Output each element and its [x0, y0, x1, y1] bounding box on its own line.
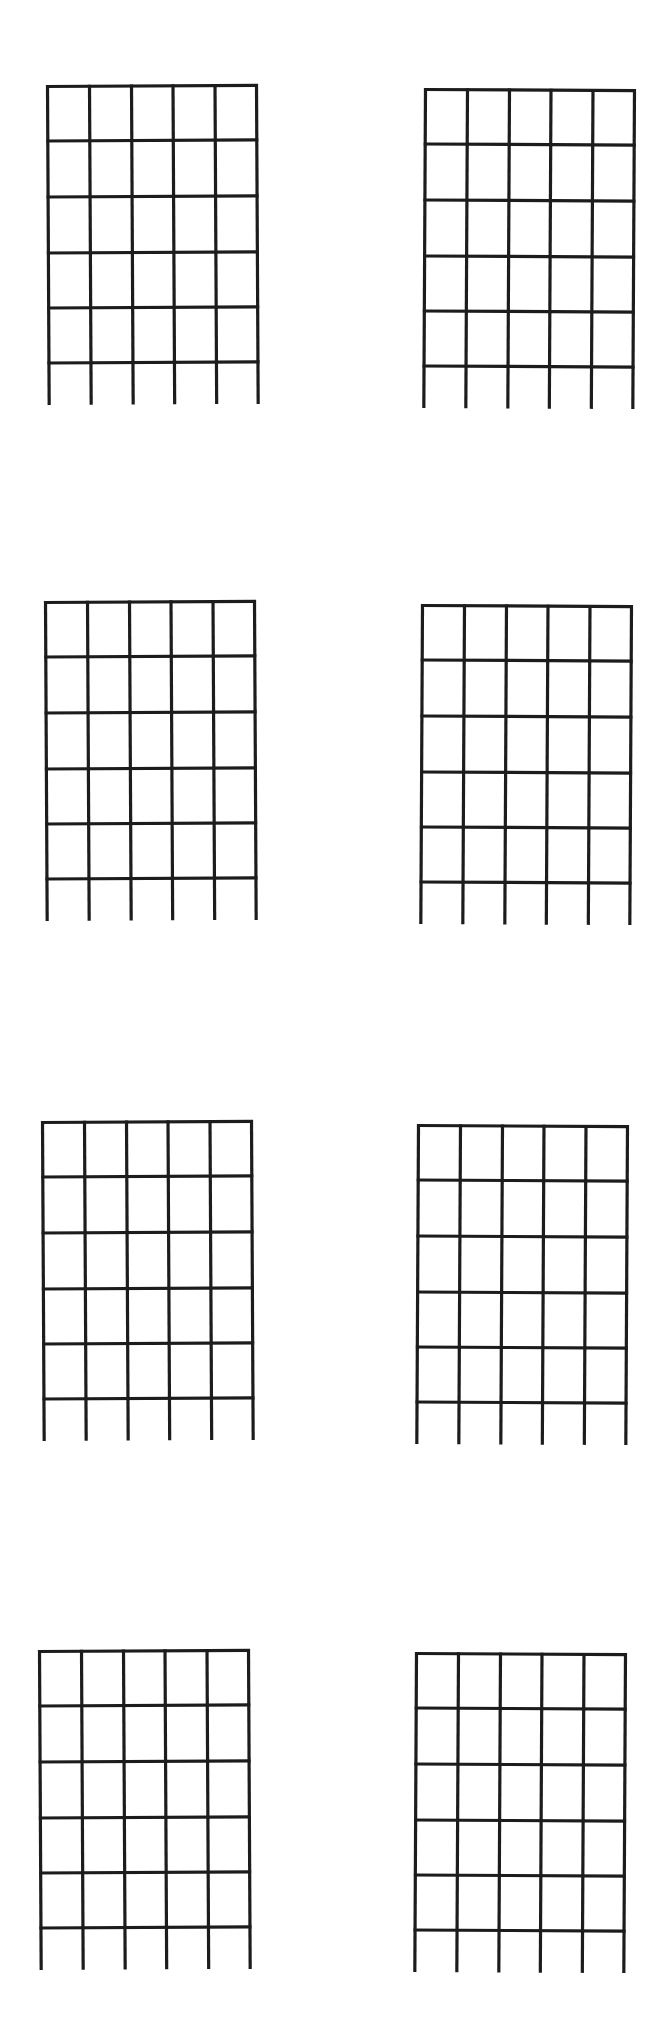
fret-line — [420, 716, 632, 717]
fret-line — [423, 311, 635, 312]
fret-line — [47, 362, 259, 363]
string-line — [463, 604, 465, 924]
strings — [42, 1120, 253, 1441]
string-line — [591, 89, 593, 409]
string-line — [126, 1121, 128, 1441]
string-line — [584, 1125, 586, 1445]
string-line — [210, 1120, 212, 1440]
fret-line — [42, 1398, 254, 1399]
frets — [414, 1654, 627, 1932]
fret-line — [414, 1764, 626, 1765]
fretboard-grid-icon — [38, 1649, 254, 1972]
chord-box-r1c1 — [46, 84, 262, 407]
chord-box-r3c2 — [415, 1124, 631, 1447]
string-line — [466, 88, 468, 408]
string-line — [546, 605, 548, 925]
fret-line — [45, 768, 257, 769]
nut-line — [417, 1126, 629, 1127]
string-line — [171, 600, 173, 920]
string-line — [457, 1652, 459, 1972]
strings — [39, 1649, 250, 1970]
strings — [421, 604, 632, 925]
fret-line — [45, 823, 257, 824]
fret-line — [42, 1288, 254, 1289]
string-line — [89, 85, 91, 405]
nut-line — [46, 85, 258, 86]
fretboard-grid-icon — [44, 600, 260, 923]
nut-line — [41, 1121, 253, 1122]
string-line — [248, 1649, 250, 1969]
string-line — [415, 1652, 417, 1972]
string-line — [129, 601, 131, 921]
fret-line — [39, 1817, 251, 1818]
fretboard-grid-icon — [413, 1652, 629, 1975]
fret-line — [45, 878, 257, 879]
string-line — [626, 1125, 628, 1445]
string-line — [417, 1124, 419, 1444]
chord-chart-sheet — [0, 0, 665, 2041]
string-line — [254, 600, 256, 920]
fret-line — [423, 256, 635, 257]
frets — [416, 1126, 629, 1404]
fret-line — [47, 196, 259, 197]
fret-line — [39, 1927, 251, 1928]
strings — [45, 600, 256, 921]
string-line — [582, 1653, 584, 1973]
frets — [46, 85, 259, 363]
fret-line — [42, 1343, 254, 1344]
string-line — [47, 85, 49, 405]
string-line — [251, 1120, 253, 1440]
fret-line — [414, 1820, 626, 1821]
fret-line — [47, 252, 259, 253]
nut-line — [421, 606, 633, 607]
fretboard-grid-icon — [415, 1124, 631, 1447]
fret-line — [420, 882, 632, 883]
string-line — [542, 1125, 544, 1445]
chord-box-r3c1 — [41, 1120, 257, 1443]
string-line — [508, 88, 510, 408]
chord-box-r4c2 — [413, 1652, 629, 1975]
string-line — [45, 601, 47, 921]
frets — [41, 1121, 254, 1399]
fretboard-grid-icon — [41, 1120, 257, 1443]
frets — [420, 606, 633, 884]
string-line — [213, 600, 215, 920]
string-line — [168, 1120, 170, 1440]
string-line — [549, 89, 551, 409]
string-line — [39, 1650, 41, 1970]
string-line — [624, 1653, 626, 1973]
nut-line — [44, 601, 256, 602]
fret-line — [39, 1761, 251, 1762]
fret-line — [414, 1875, 626, 1876]
string-line — [81, 1650, 83, 1970]
fret-line — [42, 1232, 254, 1233]
chord-box-r2c1 — [44, 600, 260, 923]
fret-line — [421, 660, 633, 661]
fret-line — [47, 307, 259, 308]
string-line — [499, 1652, 501, 1972]
string-line — [165, 1649, 167, 1969]
string-line — [501, 1124, 503, 1444]
string-line — [84, 1121, 86, 1441]
fret-line — [41, 1176, 253, 1177]
string-line — [215, 84, 217, 404]
nut-line — [424, 89, 636, 90]
string-line — [424, 88, 426, 408]
strings — [424, 88, 635, 409]
strings — [47, 84, 258, 405]
frets — [44, 601, 257, 879]
fretboard-grid-icon — [422, 88, 638, 411]
string-line — [87, 601, 89, 921]
string-line — [588, 605, 590, 925]
string-line — [207, 1649, 209, 1969]
fretboard-grid-icon — [46, 84, 262, 407]
string-line — [540, 1653, 542, 1973]
string-line — [421, 604, 423, 924]
string-line — [505, 604, 507, 924]
string-line — [131, 85, 133, 405]
fret-line — [45, 712, 257, 713]
fretboard-grid-icon — [419, 604, 635, 927]
fret-line — [416, 1402, 628, 1403]
fret-line — [424, 144, 636, 145]
fret-line — [415, 1708, 627, 1709]
